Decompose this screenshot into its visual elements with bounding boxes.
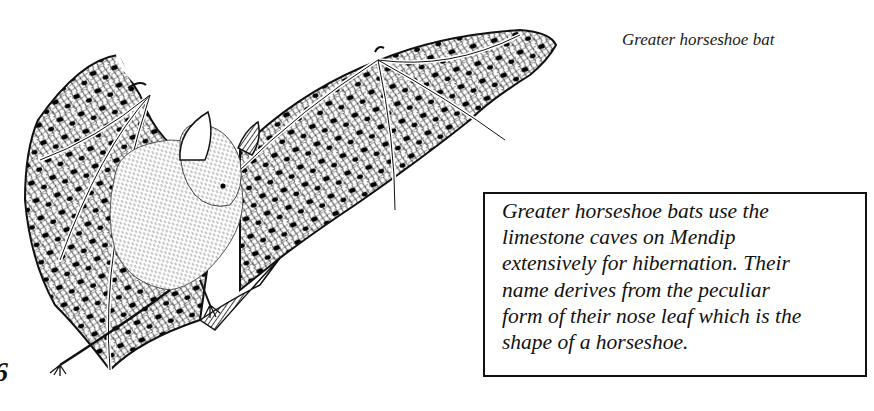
info-line: name derives from the peculiar	[502, 277, 859, 303]
info-line: Greater horseshoe bats use the	[502, 198, 859, 224]
info-line: extensively for hibernation. Their	[502, 250, 859, 276]
figure-caption: Greater horseshoe bat	[622, 30, 774, 50]
info-line: limestone caves on Mendip	[502, 224, 859, 250]
info-line: form of their nose leaf which is the	[502, 303, 859, 329]
info-line: shape of a horseshoe.	[502, 329, 859, 355]
info-box: Greater horseshoe bats use the limestone…	[483, 192, 867, 377]
page-number-fragment: 6	[0, 356, 8, 388]
info-text: Greater horseshoe bats use the limestone…	[502, 198, 859, 355]
